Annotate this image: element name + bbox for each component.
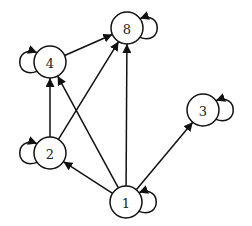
node-label: 1 <box>122 196 130 211</box>
edge-1-to-8 <box>126 44 127 186</box>
directed-graph-diagram: 12348 <box>0 0 252 226</box>
node-2: 2 <box>34 137 66 169</box>
edge-1-to-3 <box>136 122 192 189</box>
node-label: 4 <box>46 56 54 71</box>
edge-arrow <box>58 42 118 140</box>
node-1: 1 <box>110 186 142 218</box>
graph-svg: 12348 <box>0 0 252 226</box>
edge-arrow <box>58 76 119 188</box>
node-8: 8 <box>111 12 143 44</box>
edge-arrow <box>136 122 192 189</box>
node-label: 2 <box>46 147 54 162</box>
edge-1-to-2 <box>63 162 112 194</box>
node-3: 3 <box>187 94 219 126</box>
node-label: 8 <box>123 22 131 37</box>
edge-4-to-8 <box>65 34 113 55</box>
edge-arrow <box>126 44 127 186</box>
edge-arrow <box>65 34 113 55</box>
edge-1-to-4 <box>58 76 119 188</box>
node-4: 4 <box>34 46 66 78</box>
edge-arrow <box>63 162 112 194</box>
edge-2-to-8 <box>58 42 118 140</box>
node-label: 3 <box>199 104 207 119</box>
